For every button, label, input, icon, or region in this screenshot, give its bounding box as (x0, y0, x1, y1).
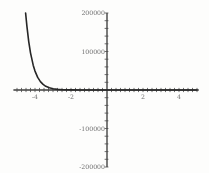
curve-path (26, 13, 197, 90)
exponential-curve-plot: -4-224200000100000-100000-200000 (0, 0, 209, 173)
x-tick-label: -2 (68, 93, 74, 100)
y-tick-label: -200000 (79, 163, 105, 170)
x-tick-label: -4 (32, 93, 38, 100)
y-tick-label: 200000 (81, 9, 105, 16)
y-tick-label: 100000 (81, 48, 105, 55)
x-tick-label: 4 (177, 93, 181, 100)
x-tick-label: 2 (141, 93, 145, 100)
y-tick-label: -100000 (79, 125, 105, 132)
figure-canvas: -4-224200000100000-100000-200000 (0, 0, 209, 173)
